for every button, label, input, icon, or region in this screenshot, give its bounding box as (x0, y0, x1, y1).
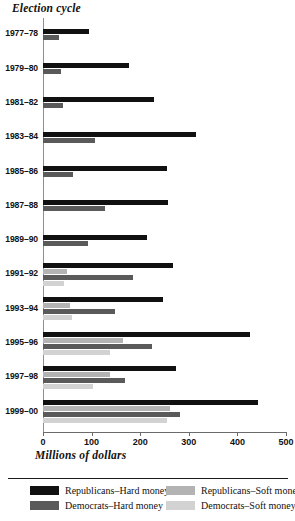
bar-group: 1977–78 (43, 29, 286, 40)
category-label: 1985–86 (5, 166, 38, 176)
bar-rs (43, 338, 123, 343)
legend-swatch (166, 486, 195, 495)
category-label: 1995–96 (5, 337, 38, 347)
category-label: 1983–84 (5, 131, 38, 141)
bar-dh (43, 275, 133, 280)
bar-rh (43, 63, 129, 68)
bar-group: 1997–98 (43, 366, 286, 389)
x-axis-tick-label: 300 (181, 437, 196, 447)
bar-rh (43, 200, 168, 205)
legend-swatch (30, 486, 59, 495)
legend-item-republicans-soft-money: Republicans–Soft money (166, 483, 295, 498)
bar-rs (43, 406, 170, 411)
bar-group: 1993–94 (43, 297, 286, 320)
bar-dh (43, 412, 180, 417)
legend-item-republicans-hard-money: Republicans–Hard money (30, 483, 169, 498)
bar-group: 1983–84 (43, 132, 286, 143)
chart-legend: Republicans–Hard money Republicans–Soft … (8, 478, 288, 521)
x-axis-line (43, 432, 286, 433)
legend-label: Republicans–Hard money (65, 485, 169, 496)
bar-ds (43, 281, 64, 286)
x-axis-tick-label: 500 (278, 437, 293, 447)
bar-group: 1999–00 (43, 400, 286, 423)
bar-rh (43, 366, 176, 371)
category-label: 1993–94 (5, 303, 38, 313)
bar-group: 1979–80 (43, 63, 286, 74)
bar-chart: Election cycle 1977–781979–801981–821983… (0, 0, 295, 521)
bar-group: 1991–92 (43, 263, 286, 286)
x-axis-tick (189, 432, 190, 436)
legend-label: Democrats–Soft money (201, 500, 295, 511)
x-axis-tick-label: 200 (133, 437, 148, 447)
category-label: 1979–80 (5, 63, 38, 73)
category-label: 1999–00 (5, 406, 38, 416)
category-label: 1987–88 (5, 200, 38, 210)
legend-item-democrats-hard-money: Democrats–Hard money (30, 498, 163, 513)
bar-rh (43, 332, 250, 337)
bar-group: 1989–90 (43, 235, 286, 246)
bar-ds (43, 384, 93, 389)
legend-label: Republicans–Soft money (201, 485, 295, 496)
bar-rh (43, 235, 147, 240)
bar-dh (43, 35, 59, 40)
bar-ds (43, 418, 167, 423)
bar-dh (43, 344, 152, 349)
bar-rs (43, 303, 70, 308)
x-axis-tick-label: 100 (84, 437, 99, 447)
bar-dh (43, 241, 88, 246)
legend-swatch (166, 501, 195, 510)
x-axis-tick (140, 432, 141, 436)
category-label: 1989–90 (5, 234, 38, 244)
bar-rh (43, 29, 89, 34)
plot-area: 1977–781979–801981–821983–841985–861987–… (43, 18, 286, 430)
legend-row: Republicans–Hard money Republicans–Soft … (8, 483, 288, 498)
bar-rs (43, 269, 67, 274)
bar-dh (43, 206, 105, 211)
x-axis-tick (286, 432, 287, 436)
legend-item-democrats-soft-money: Democrats–Soft money (166, 498, 295, 513)
bar-rh (43, 132, 196, 137)
bar-dh (43, 138, 95, 143)
x-axis-title: Millions of dollars (35, 449, 126, 461)
legend-swatch (30, 501, 59, 510)
bar-dh (43, 309, 115, 314)
category-label: 1997–98 (5, 371, 38, 381)
x-axis-tick (92, 432, 93, 436)
bar-rh (43, 400, 258, 405)
bar-dh (43, 103, 63, 108)
bar-dh (43, 69, 61, 74)
bar-rs (43, 372, 110, 377)
bar-group: 1987–88 (43, 200, 286, 211)
legend-row: Democrats–Hard money Democrats–Soft mone… (8, 498, 288, 513)
legend-label: Democrats–Hard money (65, 500, 163, 511)
x-axis-tick-label: 0 (40, 437, 45, 447)
x-axis-tick (43, 432, 44, 436)
bar-ds (43, 350, 110, 355)
bar-group: 1985–86 (43, 166, 286, 177)
bar-dh (43, 378, 125, 383)
category-label: 1981–82 (5, 97, 38, 107)
bar-dh (43, 172, 73, 177)
bar-rh (43, 263, 173, 268)
category-label: 1977–78 (5, 28, 38, 38)
category-label: 1991–92 (5, 268, 38, 278)
bar-rh (43, 97, 154, 102)
bar-group: 1981–82 (43, 97, 286, 108)
bar-rh (43, 166, 167, 171)
x-axis-tick (237, 432, 238, 436)
bar-group: 1995–96 (43, 332, 286, 355)
bar-ds (43, 315, 72, 320)
y-axis-title: Election cycle (12, 2, 81, 14)
bar-rh (43, 297, 163, 302)
x-axis-tick-label: 400 (230, 437, 245, 447)
